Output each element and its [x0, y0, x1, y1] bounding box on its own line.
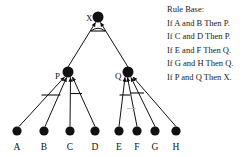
leaf-label-h: H — [173, 142, 180, 152]
edge-group-root — [68, 23, 128, 68]
leaf-node-b[interactable]: B — [39, 126, 48, 152]
leaf-circle-f[interactable] — [132, 126, 141, 135]
node-root-x[interactable]: X — [86, 12, 104, 24]
edge-d-to-p — [73, 77, 96, 127]
leaf-circle-a[interactable] — [12, 126, 21, 135]
node-label-q: Q — [115, 71, 122, 81]
rule-line-1: If A and B Then P. — [167, 17, 250, 31]
node-label-p: P — [55, 71, 60, 81]
leaf-node-f[interactable]: F — [132, 126, 141, 152]
node-q[interactable]: Q — [115, 67, 134, 82]
leaf-node-g[interactable]: G — [150, 126, 159, 152]
leaf-label-c: C — [67, 142, 73, 152]
leaf-circle-d[interactable] — [90, 126, 99, 135]
inference-tree-screenshot: X P Q A B C D E — [0, 0, 250, 157]
leaf-circle-c[interactable] — [65, 126, 74, 135]
edge-g-to-q — [131, 78, 155, 127]
leaf-circle-b[interactable] — [39, 126, 48, 135]
leaf-circle-h[interactable] — [171, 126, 180, 135]
edge-b-to-p — [45, 78, 67, 127]
leaf-circle-g[interactable] — [150, 126, 159, 135]
rule-line-2: If C and D Then P. — [167, 30, 250, 44]
leaf-node-d[interactable]: D — [90, 126, 99, 152]
leaf-node-c[interactable]: C — [65, 126, 74, 152]
edge-f-to-q — [128, 78, 138, 127]
edge-q-to-x — [101, 23, 129, 68]
node-circle-q[interactable] — [123, 67, 134, 78]
leaf-label-d: D — [92, 142, 99, 152]
node-circle-x[interactable] — [93, 12, 104, 23]
leaf-node-h[interactable]: H — [171, 126, 180, 152]
rule-base-panel: Rule Base: If A and B Then P. If C and D… — [167, 3, 250, 84]
leaf-node-e[interactable]: E — [114, 126, 123, 152]
rule-line-4: If G and H Then Q. — [167, 57, 250, 71]
edge-c-to-p — [70, 78, 71, 127]
node-circle-p[interactable] — [63, 67, 74, 78]
edge-e-to-q — [119, 78, 125, 127]
node-label-x: X — [86, 13, 93, 23]
rule-base-title: Rule Base: — [167, 3, 250, 17]
leaf-node-a[interactable]: A — [12, 126, 21, 152]
leaf-label-a: A — [14, 142, 21, 152]
leaf-circle-e[interactable] — [114, 126, 123, 135]
edge-a-to-p — [19, 77, 65, 127]
edge-h-to-q — [133, 77, 176, 127]
edge-group-q — [119, 77, 176, 127]
leaf-label-e: E — [116, 142, 122, 152]
rule-line-3: If E and F Then Q. — [167, 44, 250, 58]
leaf-label-b: B — [41, 142, 47, 152]
edge-p-to-x — [68, 23, 96, 68]
leaf-label-f: F — [134, 142, 139, 152]
edge-group-p — [19, 77, 95, 127]
leaf-label-g: G — [152, 142, 159, 152]
rule-line-5: If P and Q Then X. — [167, 71, 250, 85]
